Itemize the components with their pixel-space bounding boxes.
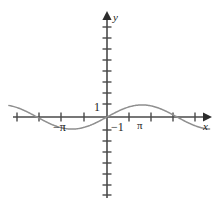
y-axis-label: y (113, 12, 118, 23)
plot-canvas (0, 0, 217, 205)
x-tick-label-negative-pi: −π (53, 121, 66, 133)
y-tick-label-one: 1 (94, 101, 100, 113)
y-axis-arrow-icon (102, 11, 111, 20)
x-tick-label-pi: π (137, 120, 143, 131)
y-tick-label-negative-one: −1 (111, 121, 124, 133)
sine-wave-figure: y x 1 −1 −π π (0, 0, 217, 205)
x-axis-label: x (203, 121, 208, 132)
